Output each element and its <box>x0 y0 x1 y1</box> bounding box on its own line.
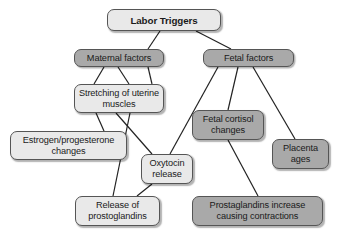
edge-maternal-to-oxytocin <box>148 67 152 84</box>
node-label-fetal-factors: Fetal factors <box>221 53 276 64</box>
edge-maternal-to-stretching-left <box>94 67 104 84</box>
node-placenta-ages[interactable]: Placenta ages <box>272 139 329 169</box>
edge-labor-to-fetal <box>196 31 231 49</box>
node-label-prostaglandins-increase: Prostaglandins increase causing contract… <box>193 200 322 222</box>
node-label-fetal-cortisol-changes: Fetal cortisol changes <box>193 114 263 136</box>
node-estrogen-progesterone-changes[interactable]: Estrogen/progesterone changes <box>10 131 127 160</box>
node-stretching-uterine-muscles[interactable]: Stretching of uterine muscles <box>74 84 164 113</box>
edge-cortisol-to-prostaglandins <box>228 140 258 196</box>
node-labor-triggers[interactable]: Labor Triggers <box>107 9 221 31</box>
node-fetal-factors[interactable]: Fetal factors <box>203 49 294 67</box>
node-label-maternal-factors: Maternal factors <box>84 53 154 64</box>
node-label-placenta-ages: Placenta ages <box>273 143 328 165</box>
node-label-estrogen-progesterone-changes: Estrogen/progesterone changes <box>11 135 126 157</box>
edge-fetal-to-cortisol <box>228 67 238 110</box>
node-label-labor-triggers: Labor Triggers <box>127 15 200 26</box>
node-maternal-factors[interactable]: Maternal factors <box>74 49 164 67</box>
edge-labor-to-maternal <box>148 31 160 49</box>
node-oxytocin-release[interactable]: Oxytocin release <box>141 154 193 184</box>
node-fetal-cortisol-changes[interactable]: Fetal cortisol changes <box>192 110 264 140</box>
edge-maternal-to-stretching-right <box>118 67 129 84</box>
node-prostaglandins-increase[interactable]: Prostaglandins increase causing contract… <box>192 196 323 226</box>
node-release-of-prostoglandins[interactable]: Release of prostoglandins <box>75 196 160 226</box>
edge-stretching-to-estrogen <box>96 113 104 131</box>
node-label-oxytocin-release: Oxytocin release <box>142 158 192 180</box>
node-label-stretching-uterine-muscles: Stretching of uterine muscles <box>75 88 163 110</box>
diagram-canvas: Labor TriggersMaternal factorsFetal fact… <box>0 0 339 243</box>
edge-oxytocin-to-prostoglandins <box>137 184 152 196</box>
node-label-release-of-prostoglandins: Release of prostoglandins <box>76 200 159 222</box>
